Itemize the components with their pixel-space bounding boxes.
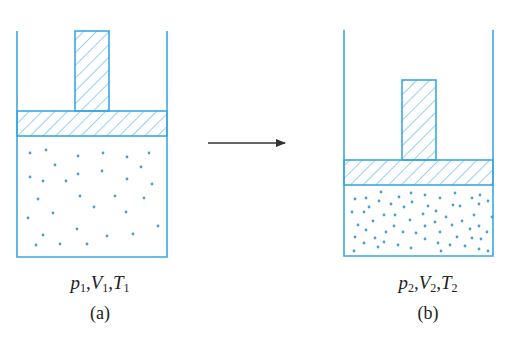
gas-particle: [454, 192, 457, 195]
gas-particle: [65, 180, 68, 183]
gas-particle: [445, 216, 448, 219]
gas-particle: [491, 216, 494, 219]
gas-particle: [397, 244, 400, 247]
gas-particle: [380, 191, 383, 194]
gas-particle: [54, 164, 57, 167]
gas-particle: [410, 247, 413, 250]
gas-particle: [27, 217, 30, 220]
gas-particle: [427, 205, 430, 208]
gas-particle: [35, 244, 38, 247]
gas-particle: [424, 225, 427, 228]
gas-particle: [464, 245, 467, 248]
gas-particle: [486, 231, 489, 234]
gas-particle: [480, 238, 483, 241]
gas-particle: [440, 250, 443, 253]
gas-particle: [365, 197, 368, 200]
gas-particle: [424, 194, 427, 197]
piston-rod: [75, 31, 109, 111]
gas-particle: [393, 225, 396, 228]
gas-particle: [439, 197, 442, 200]
gas-particle: [437, 242, 440, 245]
gas-particle: [353, 250, 356, 253]
gas-particle: [409, 219, 412, 222]
gas-particle: [106, 235, 109, 238]
gas-particle: [378, 200, 381, 203]
gas-particle: [398, 196, 401, 199]
gas-particle: [402, 231, 405, 234]
gas-particle: [471, 237, 474, 240]
gas-particle: [77, 155, 80, 158]
gas-particle: [157, 225, 160, 228]
piston-rod: [402, 80, 436, 160]
gas-particle: [394, 214, 397, 217]
gas-particle: [365, 229, 368, 232]
gas-particle: [132, 233, 135, 236]
gas-particle: [439, 231, 442, 234]
gas-particle: [76, 228, 79, 231]
cylinder-state-b: [344, 30, 493, 256]
gas-particle: [126, 156, 129, 159]
gas-particle: [403, 206, 406, 209]
gas-particle: [452, 204, 455, 207]
gas-particle: [390, 203, 393, 206]
gas-particle: [478, 203, 481, 206]
gas-particle: [354, 198, 357, 201]
gas-particle: [449, 244, 452, 247]
gas-particles: [351, 191, 494, 253]
gas-particle: [487, 250, 490, 253]
gas-particle: [415, 232, 418, 235]
gas-particle: [351, 211, 354, 214]
gas-particle: [42, 180, 45, 183]
gas-particle: [45, 149, 48, 152]
gas-particle: [487, 200, 490, 203]
gas-particle: [357, 224, 360, 227]
gas-particle: [363, 242, 366, 245]
gas-particle: [101, 170, 104, 173]
gas-particle: [363, 211, 366, 214]
gas-particle: [42, 234, 45, 237]
gas-particle: [93, 206, 96, 209]
caption-b: (b): [368, 303, 488, 324]
gas-particle: [143, 197, 146, 200]
gas-particle: [354, 236, 357, 239]
gas-particle: [451, 224, 454, 227]
gas-particles: [27, 149, 160, 247]
gas-particle: [151, 183, 154, 186]
gas-particle: [126, 178, 129, 181]
gas-particle: [77, 173, 80, 176]
gas-particle: [411, 201, 414, 204]
gas-particle: [461, 220, 464, 223]
gas-particle: [478, 248, 481, 251]
gas-particle: [471, 197, 474, 200]
gas-particle: [374, 237, 377, 240]
gas-particle: [140, 166, 143, 169]
piston: [17, 111, 167, 136]
caption-a: (a): [40, 303, 160, 324]
gas-particle: [424, 238, 427, 241]
gas-particle: [435, 210, 438, 213]
gas-particle: [59, 243, 62, 246]
gas-particle: [434, 221, 437, 224]
gas-particle: [469, 228, 472, 231]
state-label-a: p1,V1,T1: [40, 272, 160, 296]
gas-particle: [114, 195, 117, 198]
gas-particle: [479, 194, 482, 197]
gas-particle: [410, 192, 413, 195]
gas-particle: [368, 206, 371, 209]
gas-particle: [29, 152, 32, 155]
state-label-b: p2,V2,T2: [368, 272, 488, 296]
gas-particle: [37, 198, 40, 201]
gas-particle: [148, 152, 151, 155]
piston: [344, 160, 493, 185]
cylinder-state-a: [17, 31, 167, 257]
gas-particle: [372, 220, 375, 223]
gas-particle: [52, 212, 55, 215]
gas-particle: [29, 176, 32, 179]
gas-particle: [102, 152, 105, 155]
gas-particle: [383, 214, 386, 217]
gas-particle: [385, 231, 388, 234]
gas-particle: [383, 241, 386, 244]
gas-particle: [478, 225, 481, 228]
gas-particle: [456, 236, 459, 239]
gas-particle: [473, 214, 476, 217]
